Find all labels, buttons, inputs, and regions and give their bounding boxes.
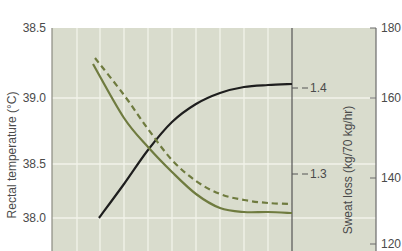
- left-axis-ticks: 38.539.038.538.0: [23, 21, 47, 225]
- middle-tick-label: 1.3: [310, 167, 327, 181]
- chart: 38.539.038.538.0 1.41.3 180160140120 Rec…: [0, 0, 402, 251]
- left-tick-label: 38.5: [23, 157, 47, 171]
- middle-tick-label: 1.4: [310, 81, 327, 95]
- right-tick-label: 140: [381, 171, 401, 185]
- left-axis-title: Rectal temperature (°C): [5, 92, 19, 219]
- right-tick-label: 160: [381, 91, 401, 105]
- left-tick-label: 38.0: [23, 211, 47, 225]
- middle-axis-title: Sweat loss (kg/70 kg/hr): [341, 106, 355, 235]
- right-tick-label: 120: [381, 237, 401, 251]
- right-tick-label: 180: [381, 21, 401, 35]
- left-tick-label: 38.5: [23, 21, 47, 35]
- left-tick-label: 39.0: [23, 91, 47, 105]
